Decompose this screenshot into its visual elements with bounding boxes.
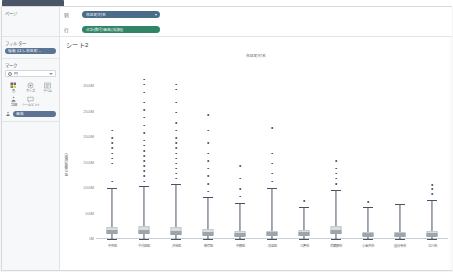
outlier-point[interactable] (175, 168, 177, 170)
tableau-window: ページ フィルター 種類 (はし市区町... マーク 円 (0, 0, 453, 272)
marks-button-color[interactable]: 色 (5, 80, 22, 95)
outlier-point[interactable] (111, 137, 113, 139)
outlier-point[interactable] (271, 127, 273, 129)
outlier-point[interactable] (207, 191, 209, 193)
outlier-point[interactable] (175, 142, 177, 144)
filter-pill[interactable]: 種類 (はし市区町... (5, 48, 56, 54)
outlier-point[interactable] (335, 160, 337, 162)
whisker-cap-lower (363, 239, 373, 240)
outlier-point[interactable] (207, 160, 209, 162)
outlier-point[interactable] (175, 130, 177, 132)
marks-button-size[interactable]: サイズ (22, 80, 39, 95)
boxplot-category[interactable] (96, 61, 128, 239)
outlier-point[interactable] (111, 153, 113, 155)
outlier-point[interactable] (143, 145, 145, 147)
outlier-point[interactable] (207, 130, 209, 132)
marks-button-tooltip[interactable]: ツールヒント (22, 95, 39, 110)
outlier-point[interactable] (271, 163, 273, 165)
boxplot-category[interactable] (128, 61, 160, 239)
outlier-point[interactable] (335, 173, 337, 175)
outlier-point[interactable] (143, 125, 145, 127)
outlier-point[interactable] (207, 153, 209, 155)
boxplot-category[interactable] (384, 61, 416, 239)
outlier-point[interactable] (111, 181, 113, 183)
columns-shelf[interactable]: 列 市区町村名 (60, 7, 452, 22)
outlier-point[interactable] (111, 142, 113, 144)
outlier-point[interactable] (143, 79, 145, 81)
outlier-point[interactable] (207, 142, 209, 144)
outlier-point[interactable] (175, 173, 177, 175)
outlier-point[interactable] (239, 165, 241, 167)
outlier-point[interactable] (207, 114, 209, 116)
mark-type-select[interactable]: 円 (5, 70, 56, 77)
rows-shelf-pill[interactable]: 合計(取引価格(総額)) (82, 26, 160, 33)
rows-shelf[interactable]: 行 合計(取引価格(総額)) (60, 22, 452, 37)
outlier-point[interactable] (175, 178, 177, 180)
outlier-point[interactable] (367, 201, 369, 203)
boxplot-category[interactable] (352, 61, 384, 239)
outlier-point[interactable] (143, 165, 145, 167)
outlier-point[interactable] (143, 181, 145, 183)
outlier-point[interactable] (175, 153, 177, 155)
outlier-point[interactable] (175, 89, 177, 91)
chevron-down-icon[interactable] (155, 14, 157, 16)
boxplot-category[interactable] (288, 61, 320, 239)
outlier-point[interactable] (143, 140, 145, 142)
outlier-point[interactable] (143, 102, 145, 104)
boxplot-category[interactable] (416, 61, 448, 239)
outlier-point[interactable] (143, 132, 145, 134)
outlier-point[interactable] (207, 175, 209, 177)
detail-small-icon (5, 111, 11, 117)
boxplot-category[interactable] (320, 61, 352, 239)
outlier-point[interactable] (175, 158, 177, 160)
columns-shelf-pill[interactable]: 市区町村名 (82, 11, 160, 18)
outlier-point[interactable] (335, 168, 337, 170)
outlier-point[interactable] (143, 160, 145, 162)
outlier-point[interactable] (239, 188, 241, 190)
outlier-point[interactable] (271, 181, 273, 183)
marks-button-tooltip-label: ツールヒント (22, 104, 40, 108)
outlier-point[interactable] (175, 102, 177, 104)
outlier-point[interactable] (335, 178, 337, 180)
outlier-point[interactable] (143, 175, 145, 177)
boxplot-category[interactable] (256, 61, 288, 239)
outlier-point[interactable] (207, 183, 209, 185)
outlier-point[interactable] (143, 170, 145, 172)
marks-detail-pill[interactable]: 価格 (13, 111, 56, 117)
outlier-point[interactable] (431, 188, 433, 190)
marks-button-label[interactable]: ラベル (39, 80, 56, 95)
x-axis-tick-label: 武蔵野市 (330, 243, 342, 248)
outlier-point[interactable] (175, 122, 177, 124)
outlier-point[interactable] (431, 193, 433, 195)
outlier-point[interactable] (143, 92, 145, 94)
outlier-point[interactable] (239, 196, 241, 198)
outlier-point[interactable] (111, 163, 113, 165)
marks-button-detail[interactable]: 詳細 (5, 95, 22, 110)
boxplot-category[interactable] (192, 61, 224, 239)
outlier-point[interactable] (143, 155, 145, 157)
outlier-point[interactable] (175, 147, 177, 149)
outlier-point[interactable] (431, 184, 433, 186)
pages-card: ページ (2, 7, 59, 37)
outlier-point[interactable] (143, 109, 145, 111)
outlier-point[interactable] (143, 84, 145, 86)
outlier-point[interactable] (111, 130, 113, 132)
outlier-point[interactable] (111, 158, 113, 160)
outlier-point[interactable] (271, 153, 273, 155)
boxplot-category[interactable] (160, 61, 192, 239)
vertical-scrollbar[interactable] (449, 37, 452, 270)
outlier-point[interactable] (175, 112, 177, 114)
boxplot-category[interactable] (224, 61, 256, 239)
outlier-point[interactable] (303, 200, 305, 202)
outlier-point[interactable] (143, 150, 145, 152)
outlier-point[interactable] (271, 173, 273, 175)
outlier-point[interactable] (175, 137, 177, 139)
outlier-point[interactable] (335, 183, 337, 185)
outlier-point[interactable] (111, 147, 113, 149)
outlier-point[interactable] (239, 178, 241, 180)
outlier-point[interactable] (175, 163, 177, 165)
boxplot-area[interactable]: 中央区千代田区渋谷区新宿区中野区杉並区三鷹市武蔵野市小金井市国分寺市立川市 (96, 61, 448, 239)
outlier-point[interactable] (175, 84, 177, 86)
outlier-point[interactable] (143, 117, 145, 119)
outlier-point[interactable] (207, 168, 209, 170)
